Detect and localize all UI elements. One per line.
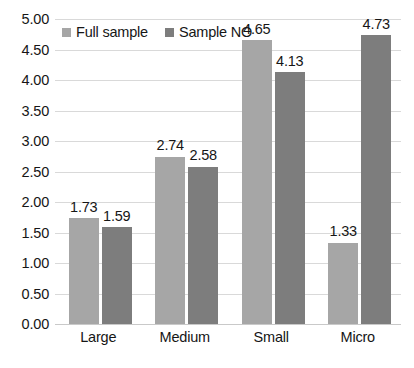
bar[interactable] [188, 167, 218, 324]
bar[interactable] [102, 227, 132, 324]
plot-area: 1.731.592.742.584.654.131.334.73 [55, 19, 401, 324]
legend-swatch-icon [165, 28, 174, 37]
y-axis-tick-label: 4.00 [0, 73, 49, 88]
x-axis-tick-label: Micro [303, 330, 413, 345]
bar[interactable] [275, 72, 305, 324]
x-axis: LargeMediumSmallMicro [55, 330, 401, 356]
legend-label: Sample NO [179, 25, 252, 40]
y-axis: 5.004.504.003.503.002.502.001.501.000.50… [0, 19, 49, 324]
bar[interactable] [361, 35, 391, 324]
y-axis-tick-label: 2.00 [0, 195, 49, 210]
bar-chart: 5.004.504.003.503.002.502.001.501.000.50… [0, 0, 414, 368]
y-axis-tick-label: 4.50 [0, 42, 49, 57]
y-axis-tick-label: 0.50 [0, 286, 49, 301]
legend-label: Full sample [76, 25, 148, 40]
axis-baseline [55, 324, 401, 325]
bar-group: 2.742.58 [155, 19, 218, 324]
y-axis-tick-label: 1.00 [0, 256, 49, 271]
bar[interactable] [69, 218, 99, 324]
y-axis-tick-label: 0.00 [0, 317, 49, 332]
y-axis-tick-label: 1.50 [0, 225, 49, 240]
y-axis-tick-label: 3.50 [0, 103, 49, 118]
legend-swatch-icon [62, 28, 71, 37]
bar-value-label: 4.13 [262, 54, 318, 69]
bar-value-label: 2.58 [175, 148, 231, 163]
bar-value-label: 4.73 [348, 17, 404, 32]
bar[interactable] [155, 157, 185, 324]
bar-group: 4.654.13 [242, 19, 305, 324]
legend-item[interactable]: Full sample [62, 25, 148, 40]
y-axis-tick-label: 5.00 [0, 12, 49, 27]
legend-item[interactable]: Sample NO [165, 25, 252, 40]
bar[interactable] [242, 40, 272, 324]
y-axis-tick-label: 2.50 [0, 164, 49, 179]
bar-group: 1.731.59 [69, 19, 132, 324]
bar-value-label: 1.59 [89, 209, 145, 224]
chart-legend: Full sampleSample NO [62, 25, 252, 40]
bar[interactable] [328, 243, 358, 324]
y-axis-tick-label: 3.00 [0, 134, 49, 149]
bar-group: 1.334.73 [328, 19, 391, 324]
